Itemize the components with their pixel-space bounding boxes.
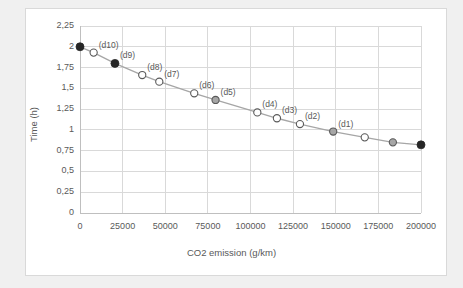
data-point-label: (d3) — [282, 105, 297, 115]
data-point-label: (d5) — [221, 87, 236, 97]
data-point-marker — [76, 43, 84, 51]
y-axis-title: Time (h) — [28, 106, 39, 141]
data-point-marker — [330, 128, 337, 135]
data-point-label: (d7) — [164, 69, 179, 79]
data-point-label: (d2) — [305, 111, 320, 121]
data-point-marker — [156, 78, 163, 85]
series-line — [80, 47, 421, 145]
data-point-label: (d9) — [120, 50, 135, 60]
data-point-label: (d1) — [338, 119, 353, 129]
data-point-marker — [212, 96, 219, 103]
y-axis-tick-label: 0,5 — [32, 165, 74, 175]
data-point-marker — [254, 109, 261, 116]
y-axis-tick-label: 0 — [32, 207, 74, 217]
data-point-marker — [191, 90, 198, 97]
data-point-marker — [139, 71, 146, 78]
y-axis-tick-label: 0,75 — [32, 145, 74, 155]
y-axis-tick-label: 1,75 — [32, 62, 74, 72]
scatter-chart: 00,250,50,7511,251,51,7522,25 0250005000… — [0, 0, 463, 288]
y-axis-tick-label: 2 — [32, 41, 74, 51]
data-point-marker — [361, 134, 368, 141]
data-point-marker — [417, 141, 425, 149]
data-point-marker — [111, 59, 119, 67]
y-axis-tick-label: 0,25 — [32, 186, 74, 196]
y-axis-tick-label: 2,25 — [32, 20, 74, 30]
y-axis-tick-label: 1,5 — [32, 82, 74, 92]
data-point-label: (d4) — [262, 99, 277, 109]
data-point-label: (d10) — [99, 40, 119, 50]
data-point-marker — [296, 120, 303, 127]
x-axis-tick-label: 200000 — [391, 221, 451, 231]
data-point-label: (d8) — [147, 62, 162, 72]
x-axis-title: CO2 emission (g/km) — [0, 247, 463, 258]
data-point-label: (d6) — [199, 80, 214, 90]
data-point-marker — [273, 115, 280, 122]
data-point-marker — [90, 49, 97, 56]
data-point-marker — [389, 139, 396, 146]
